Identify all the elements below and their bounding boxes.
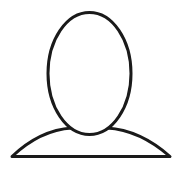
- head-outline: [48, 13, 131, 135]
- user-silhouette-icon: [0, 0, 179, 170]
- avatar-placeholder: [0, 0, 179, 170]
